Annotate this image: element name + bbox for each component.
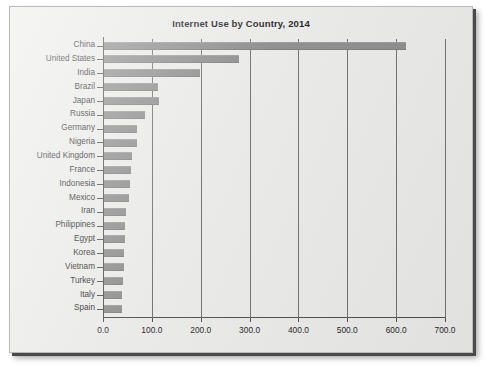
bar[interactable] <box>104 125 137 133</box>
bar[interactable] <box>104 249 124 257</box>
category-label-korea: Korea <box>7 248 95 257</box>
bar-row[interactable] <box>103 81 445 94</box>
x-axis-tick-label: 600.0 <box>386 325 407 335</box>
bar-row[interactable] <box>103 191 445 204</box>
x-axis-tick-label: 400.0 <box>288 325 309 335</box>
category-label-philippines: Philippines <box>7 220 95 229</box>
category-label-united-kingdom: United Kingdom <box>7 151 95 160</box>
bar-row[interactable] <box>103 261 445 274</box>
bar[interactable] <box>104 166 131 174</box>
bar[interactable] <box>104 97 159 105</box>
x-tick-mark <box>201 318 202 322</box>
category-label-vietnam: Vietnam <box>7 262 95 271</box>
bar-row[interactable] <box>103 288 445 301</box>
category-label-india: India <box>7 68 95 77</box>
bar-row[interactable] <box>103 122 445 135</box>
bar[interactable] <box>104 277 123 285</box>
x-axis-tick-label: 200.0 <box>190 325 211 335</box>
category-label-turkey: Turkey <box>7 276 95 285</box>
category-label-nigeria: Nigeria <box>7 137 95 146</box>
bar[interactable] <box>104 83 158 91</box>
category-label-germany: Germany <box>7 123 95 132</box>
category-label-china: China <box>7 40 95 49</box>
bar-row[interactable] <box>103 205 445 218</box>
gridline <box>445 39 446 318</box>
category-label-russia: Russia <box>7 109 95 118</box>
x-tick-mark <box>347 318 348 322</box>
x-tick-mark <box>152 318 153 322</box>
bar-row[interactable] <box>103 94 445 107</box>
category-label-france: France <box>7 165 95 174</box>
bar-row[interactable] <box>103 219 445 232</box>
bar-row[interactable] <box>103 150 445 163</box>
category-label-iran: Iran <box>7 206 95 215</box>
category-label-italy: Italy <box>7 290 95 299</box>
bar[interactable] <box>104 235 125 243</box>
x-tick-mark <box>250 318 251 322</box>
bar[interactable] <box>104 305 122 313</box>
x-axis-tick-label: 0.0 <box>97 325 109 335</box>
chart-figure-frame: Internet Use by Country, 2014 ChinaUnite… <box>9 6 473 353</box>
x-tick-mark <box>103 318 104 322</box>
bar-row[interactable] <box>103 53 445 66</box>
x-axis-tick-label: 500.0 <box>337 325 358 335</box>
bar-row[interactable] <box>103 39 445 52</box>
x-axis-tick-label: 100.0 <box>141 325 162 335</box>
category-label-spain: Spain <box>7 303 95 312</box>
bar-row[interactable] <box>103 178 445 191</box>
bar[interactable] <box>104 222 125 230</box>
x-axis-tick-label: 700.0 <box>435 325 456 335</box>
category-label-brazil: Brazil <box>7 82 95 91</box>
bar[interactable] <box>104 291 122 299</box>
bar[interactable] <box>104 194 129 202</box>
category-label-egypt: Egypt <box>7 234 95 243</box>
x-tick-mark <box>396 318 397 322</box>
bar[interactable] <box>104 208 126 216</box>
bar-row[interactable] <box>103 164 445 177</box>
bar[interactable] <box>104 152 132 160</box>
bar[interactable] <box>104 111 145 119</box>
bar-row[interactable] <box>103 247 445 260</box>
bar[interactable] <box>104 55 239 63</box>
x-axis-line <box>103 317 446 318</box>
x-tick-mark <box>298 318 299 322</box>
bar-row[interactable] <box>103 274 445 287</box>
bar[interactable] <box>104 139 137 147</box>
bar[interactable] <box>104 42 406 50</box>
category-axis-labels: ChinaUnited StatesIndiaBrazilJapanRussia… <box>10 39 100 316</box>
bar[interactable] <box>104 180 130 188</box>
category-label-japan: Japan <box>7 96 95 105</box>
bar[interactable] <box>104 263 124 271</box>
bar-row[interactable] <box>103 136 445 149</box>
category-label-united-states: United States <box>7 54 95 63</box>
bar-row[interactable] <box>103 67 445 80</box>
bar-row[interactable] <box>103 108 445 121</box>
category-label-mexico: Mexico <box>7 193 95 202</box>
x-axis-tick-label: 300.0 <box>239 325 260 335</box>
bar-row[interactable] <box>103 302 445 315</box>
bar-row[interactable] <box>103 233 445 246</box>
category-label-indonesia: Indonesia <box>7 179 95 188</box>
plot-area <box>103 39 445 316</box>
bar[interactable] <box>104 69 200 77</box>
chart-title: Internet Use by Country, 2014 <box>10 18 472 29</box>
x-tick-mark <box>445 318 446 322</box>
